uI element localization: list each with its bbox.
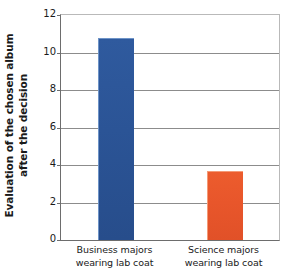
y-axis-tick-mark [57, 15, 61, 16]
y-axis-tick-mark [57, 165, 61, 166]
y-axis-tick-label: 2 [34, 197, 56, 207]
bar-chart-figure: Evaluation of the chosen album after the… [0, 0, 295, 277]
y-axis-title-line-1: Evaluation of the chosen album [4, 33, 16, 217]
y-axis-tick-label: 6 [34, 122, 56, 132]
y-axis-tick-label: 0 [34, 234, 56, 244]
x-axis-category-labels: Business majorswearing lab coatScience m… [60, 244, 280, 277]
bar [207, 171, 243, 240]
x-axis-category-label-line-1: Business majors [77, 244, 153, 255]
y-axis-tick-mark [57, 203, 61, 204]
x-axis-category-label-line-1: Science majors [188, 244, 259, 255]
y-axis-title-line-2: after the decision [17, 33, 31, 217]
gridline [61, 53, 279, 54]
y-axis-tick-mark [57, 90, 61, 91]
x-axis-category-label: Science majorswearing lab coat [169, 244, 278, 269]
y-axis-tick-labels: 024681012 [34, 0, 56, 277]
y-axis-tick-label: 8 [34, 84, 56, 94]
y-axis-tick-label: 4 [34, 159, 56, 169]
y-axis-tick-label: 12 [34, 9, 56, 19]
x-axis-category-label-line-2: wearing lab coat [60, 257, 169, 270]
gridline [61, 90, 279, 91]
y-axis-tick-mark [57, 128, 61, 129]
gridline [61, 128, 279, 129]
gridline [61, 203, 279, 204]
y-axis-tick-mark [57, 53, 61, 54]
x-axis-category-label-line-2: wearing lab coat [169, 257, 278, 270]
gridline [61, 165, 279, 166]
bar [98, 38, 134, 241]
plot-area [60, 14, 280, 241]
x-axis-category-label: Business majorswearing lab coat [60, 244, 169, 269]
y-axis-tick-mark [57, 240, 61, 241]
y-axis-title: Evaluation of the chosen album after the… [0, 0, 34, 250]
y-axis-tick-label: 10 [34, 47, 56, 57]
